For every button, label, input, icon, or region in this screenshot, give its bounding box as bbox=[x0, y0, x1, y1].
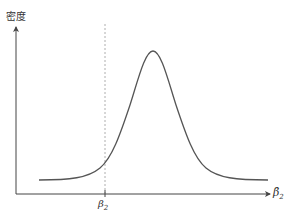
x-axis-label: β̂2 bbox=[273, 186, 284, 201]
x-axis-symbol: β̂ bbox=[273, 186, 279, 199]
density-curve bbox=[39, 51, 268, 180]
x-axis-subscript: 2 bbox=[279, 193, 283, 201]
y-axis-label: 密度 bbox=[6, 8, 26, 23]
density-chart bbox=[0, 0, 289, 211]
tick-subscript: 2 bbox=[104, 204, 108, 211]
x-tick-label: β2 bbox=[98, 198, 108, 211]
